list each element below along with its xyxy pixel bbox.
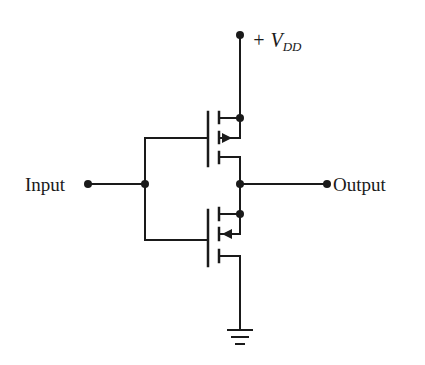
output-label: Output [333, 174, 387, 195]
nmos-transistor [208, 184, 240, 330]
gate-junction-dot [141, 180, 149, 188]
vdd-label: + VDD [252, 29, 302, 54]
ground-icon [228, 330, 252, 344]
cmos-inverter-diagram: + VDD Input Output [0, 0, 425, 365]
pmos-transistor [208, 112, 240, 184]
output-junction-dot [236, 180, 244, 188]
output-terminal-dot [323, 180, 331, 188]
nmos-arrow-icon [222, 229, 232, 239]
input-label: Input [25, 174, 66, 195]
pmos-junction-dot [236, 114, 244, 122]
vdd-terminal-dot [236, 31, 244, 39]
nmos-junction-dot [236, 210, 244, 218]
pmos-arrow-icon [222, 133, 232, 143]
input-terminal-dot [84, 180, 92, 188]
